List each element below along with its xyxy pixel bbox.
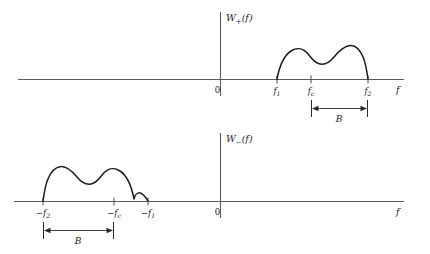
origin-label-positive: 0 [215,85,220,95]
bandwidth-bracket-positive: B [312,100,368,124]
tick-label-fc: fc [307,86,315,97]
bandwidth-arrowhead-right-positive [361,106,368,111]
vertical-axis-label-negative: W−(f) [226,133,253,147]
negative-frequency-panel: W−(f) f 0 −f2 −fc −f1 B [14,133,404,246]
bandwidth-bracket-negative: B [44,222,114,246]
bandwidth-label-positive: B [335,114,343,124]
spectral-density-figure: W+(f) f 0 f1 fc f2 B [0,0,430,254]
vertical-axis-label-positive: W+(f) [226,12,253,26]
bandwidth-label-negative: B [74,236,82,246]
spectrum-curve-positive [277,45,368,79]
origin-label-negative: 0 [215,207,220,217]
horizontal-axis-label-positive: f [395,84,401,95]
bandwidth-arrowhead-right-negative [107,228,114,233]
tick-label-neg-fc: −fc [107,208,121,219]
tick-label-f1: f1 [272,86,280,97]
horizontal-axis-label-negative: f [395,206,401,217]
spectrum-curve-negative [43,166,148,201]
tick-label-neg-f1: −f1 [141,208,155,219]
positive-frequency-panel: W+(f) f 0 f1 fc f2 B [18,12,404,124]
tick-label-f2: f2 [363,86,371,97]
tick-label-neg-f2: −f2 [36,208,50,219]
bandwidth-arrowhead-left-positive [312,106,319,111]
bandwidth-arrowhead-left-negative [44,228,51,233]
